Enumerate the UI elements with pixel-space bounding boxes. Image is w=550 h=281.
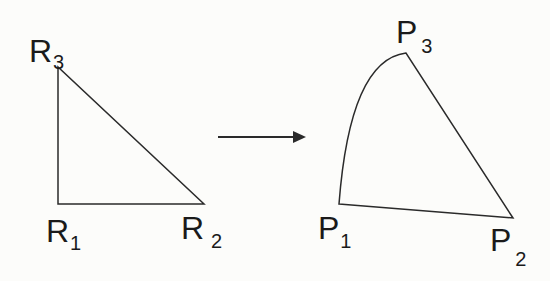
source-triangle xyxy=(58,67,204,204)
label-p3: P3 xyxy=(396,16,428,48)
label-letter: R xyxy=(29,33,52,69)
label-letter: P xyxy=(318,210,339,246)
diagram-svg xyxy=(0,0,550,281)
label-subscript: 2 xyxy=(211,230,222,252)
target-curved-triangle xyxy=(339,53,513,218)
label-letter: P xyxy=(490,222,511,258)
label-letter: P xyxy=(396,14,417,50)
label-letter: R xyxy=(46,213,69,249)
label-r3: R3 xyxy=(29,35,63,67)
label-subscript: 1 xyxy=(70,232,81,254)
label-subscript: 3 xyxy=(421,35,432,57)
arrow-head-icon xyxy=(293,131,306,143)
label-subscript: 2 xyxy=(515,248,526,270)
label-r2: R2 xyxy=(181,212,215,244)
label-p2: P2 xyxy=(490,224,522,256)
label-r1: R1 xyxy=(46,215,80,247)
label-p1: P1 xyxy=(318,212,350,244)
label-subscript: 1 xyxy=(340,230,351,252)
diagram-canvas: R3 R1 R2 P3 P1 P2 xyxy=(0,0,550,281)
label-letter: R xyxy=(181,210,204,246)
label-subscript: 3 xyxy=(53,51,64,73)
